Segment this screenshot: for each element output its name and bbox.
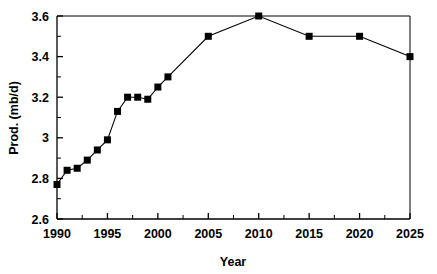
x-tick-label: 1990 <box>43 227 71 241</box>
x-tick-label: 2015 <box>295 227 323 241</box>
data-point-marker <box>64 167 71 174</box>
data-point-marker <box>407 53 414 60</box>
chart-canvas: 2.62.833.23.43.6 19901995200020052010201… <box>0 0 437 274</box>
data-point-marker <box>164 73 171 80</box>
x-tick-label: 2020 <box>346 227 374 241</box>
y-tick-label: 3.4 <box>32 50 49 64</box>
data-point-marker <box>74 165 81 172</box>
data-point-marker <box>356 33 363 40</box>
data-point-marker <box>205 33 212 40</box>
y-tick-label: 2.6 <box>32 213 49 227</box>
data-point-marker <box>94 146 101 153</box>
production-line-chart: 2.62.833.23.43.6 19901995200020052010201… <box>0 0 437 274</box>
x-tick-label: 2000 <box>144 227 172 241</box>
data-point-marker <box>124 94 131 101</box>
y-tick-label: 3.6 <box>32 10 49 24</box>
y-tick-label: 3 <box>42 131 49 145</box>
y-axis-title: Prod. (mb/d) <box>7 81 21 155</box>
data-point-marker <box>134 94 141 101</box>
data-point-marker <box>255 13 262 20</box>
y-tick-label: 2.8 <box>32 172 49 186</box>
x-tick-label: 1995 <box>94 227 122 241</box>
data-point-marker <box>114 108 121 115</box>
x-axis-title: Year <box>220 255 247 269</box>
x-tick-label: 2025 <box>396 227 424 241</box>
data-point-marker <box>54 181 61 188</box>
y-tick-label: 3.2 <box>32 91 49 105</box>
data-point-marker <box>104 136 111 143</box>
data-point-marker <box>154 84 161 91</box>
x-tick-label: 2010 <box>245 227 273 241</box>
data-point-marker <box>144 96 151 103</box>
data-point-marker <box>306 33 313 40</box>
x-tick-label: 2005 <box>194 227 222 241</box>
data-point-marker <box>84 157 91 164</box>
